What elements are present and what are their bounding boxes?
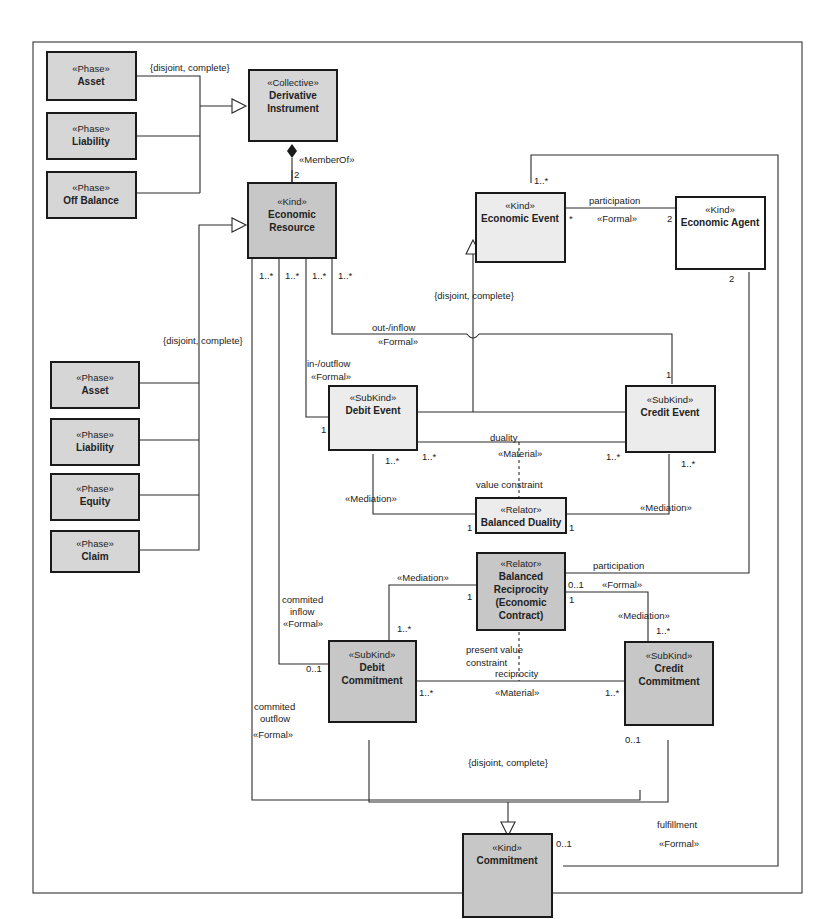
class-name: Contract) — [499, 610, 543, 621]
class-name: Asset — [77, 76, 105, 87]
class-credit-commitment[interactable]: «SubKind» Credit Commitment — [625, 642, 713, 725]
class-off-balance[interactable]: «Phase» Off Balance — [47, 172, 136, 218]
class-commitment[interactable]: «Kind» Commitment — [463, 834, 552, 917]
multiplicity: 2 — [729, 273, 734, 284]
multiplicity: 1..* — [285, 270, 300, 281]
stereotype-label: «Relator» — [500, 504, 541, 515]
class-claim[interactable]: «Phase» Claim — [51, 531, 139, 572]
multiplicity: 1..* — [681, 458, 696, 469]
multiplicity: 1 — [569, 522, 574, 533]
constraint-label: value constraint — [476, 479, 543, 490]
multiplicity: 1 — [569, 594, 574, 605]
class-name: Debit Event — [345, 405, 401, 416]
class-liability-bottom[interactable]: «Phase» Liability — [51, 419, 139, 465]
class-economic-resource[interactable]: «Kind» Economic Resource — [248, 183, 336, 258]
multiplicity: 2 — [667, 213, 672, 224]
class-economic-event[interactable]: «Kind» Economic Event — [476, 193, 565, 262]
class-name: Asset — [81, 385, 109, 396]
class-name: Commitment — [638, 676, 700, 687]
association-stereotype: «Formal» — [597, 213, 637, 224]
class-name: Resource — [269, 222, 315, 233]
uml-class-diagram: «Phase» Asset «Phase» Liability «Phase» … — [0, 0, 827, 919]
association-stereotype: «Material» — [495, 687, 539, 698]
generalization-set-label: {disjoint, complete} — [150, 62, 230, 73]
class-asset-top[interactable]: «Phase» Asset — [47, 52, 136, 100]
class-name: Liability — [72, 136, 110, 147]
class-name: (Economic — [495, 597, 547, 608]
association-name: reciprocity — [495, 668, 539, 679]
class-name: Balanced — [499, 571, 543, 582]
association-stereotype: «Material» — [498, 448, 542, 459]
association-stereotype: «Formal» — [602, 579, 642, 590]
class-name: Commitment — [476, 855, 538, 866]
association-name: commited — [282, 594, 323, 605]
stereotype-label: «SubKind» — [350, 392, 396, 403]
association-name: in-/outflow — [307, 358, 350, 369]
association-stereotype: «Mediation» — [397, 572, 449, 583]
class-derivative-instrument[interactable]: «Collective» Derivative Instrument — [249, 70, 337, 141]
class-name: Economic — [268, 209, 316, 220]
association-name: fulfillment — [657, 819, 697, 830]
class-name: Balanced Duality — [481, 517, 562, 528]
class-debit-event[interactable]: «SubKind» Debit Event — [329, 386, 417, 450]
multiplicity: 1 — [467, 522, 472, 533]
class-name: Economic Event — [481, 213, 559, 224]
class-name: Debit — [360, 662, 386, 673]
stereotype-label: «Phase» — [72, 63, 110, 74]
class-name: Liability — [76, 442, 114, 453]
association-name: out-/inflow — [372, 322, 415, 333]
association-name: duality — [490, 432, 518, 443]
class-name: Credit — [655, 663, 685, 674]
association-stereotype: «Mediation» — [618, 610, 670, 621]
multiplicity: 1..* — [605, 687, 620, 698]
class-name: Equity — [80, 496, 111, 507]
stereotype-label: «Phase» — [76, 483, 114, 494]
stereotype-label: «Relator» — [500, 558, 541, 569]
association-name: participation — [589, 195, 640, 206]
multiplicity: 1 — [666, 369, 671, 380]
stereotype-label: «SubKind» — [647, 394, 693, 405]
association-stereotype: «Mediation» — [345, 493, 397, 504]
class-economic-agent[interactable]: «Kind» Economic Agent — [676, 197, 765, 269]
multiplicity: 1..* — [534, 175, 549, 186]
multiplicity: 1..* — [422, 451, 437, 462]
class-name: Instrument — [267, 103, 319, 114]
multiplicity: 0..1 — [556, 838, 572, 849]
association-name: outflow — [260, 713, 290, 724]
stereotype-label: «Kind» — [277, 196, 307, 207]
association-stereotype: «Formal» — [378, 336, 418, 347]
association-stereotype: «Formal» — [283, 618, 323, 629]
stereotype-label: «Phase» — [72, 182, 110, 193]
multiplicity: 1..* — [419, 687, 434, 698]
multiplicity: 0..1 — [306, 663, 322, 674]
member-of-label: «MemberOf» — [299, 154, 354, 165]
class-liability-top[interactable]: «Phase» Liability — [47, 113, 136, 159]
stereotype-label: «Collective» — [267, 77, 319, 88]
class-name: Economic Agent — [681, 217, 760, 228]
multiplicity: 0..1 — [568, 579, 584, 590]
class-asset-bottom[interactable]: «Phase» Asset — [51, 362, 139, 408]
generalization-set-label: {disjoint, complete} — [468, 757, 548, 768]
multiplicity: 1..* — [259, 270, 274, 281]
stereotype-label: «Kind» — [492, 842, 522, 853]
stereotype-label: «Kind» — [505, 200, 535, 211]
stereotype-label: «Kind» — [705, 204, 735, 215]
stereotype-label: «Phase» — [76, 538, 114, 549]
class-balanced-duality[interactable]: «Relator» Balanced Duality — [476, 498, 566, 533]
class-name: Off Balance — [63, 195, 119, 206]
association-name: commited — [254, 701, 295, 712]
multiplicity: 0..1 — [625, 734, 641, 745]
association-stereotype: «Mediation» — [640, 502, 692, 513]
class-balanced-reciprocity[interactable]: «Relator» Balanced Reciprocity (Economic… — [477, 553, 565, 630]
constraint-label: present value — [466, 644, 523, 655]
class-debit-commitment[interactable]: «SubKind» Debit Commitment — [329, 641, 416, 722]
class-equity[interactable]: «Phase» Equity — [51, 474, 139, 520]
multiplicity: 1..* — [312, 270, 327, 281]
multiplicity: 1..* — [338, 270, 353, 281]
class-name: Reciprocity — [494, 584, 549, 595]
multiplicity: 1..* — [385, 455, 400, 466]
multiplicity: 1..* — [656, 625, 671, 636]
class-name: Derivative — [269, 90, 317, 101]
stereotype-label: «Phase» — [76, 372, 114, 383]
class-credit-event[interactable]: «SubKind» Credit Event — [626, 386, 715, 452]
